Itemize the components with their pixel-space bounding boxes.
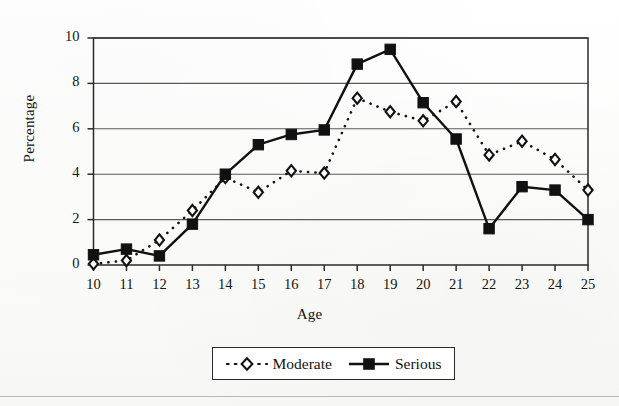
data-point-serious <box>385 44 395 54</box>
x-tick-label: 11 <box>109 276 143 293</box>
series-line-serious <box>94 49 589 256</box>
x-tick-label: 20 <box>406 276 440 293</box>
y-tick-label: 2 <box>50 210 80 227</box>
data-point-moderate <box>485 149 494 160</box>
x-tick-label: 23 <box>505 276 539 293</box>
x-tick-label: 25 <box>571 276 605 293</box>
x-tick-label: 24 <box>538 276 572 293</box>
x-tick-label: 18 <box>340 276 374 293</box>
chart-page: Percentage Age 0246810101112131415161718… <box>0 0 619 406</box>
data-point-moderate <box>155 234 164 245</box>
data-point-serious <box>121 244 131 254</box>
x-tick-label: 17 <box>307 276 341 293</box>
data-point-moderate <box>386 106 395 117</box>
data-point-serious <box>88 250 98 260</box>
x-tick-label: 12 <box>142 276 176 293</box>
x-tick-label: 21 <box>439 276 473 293</box>
legend-entry-serious: Serious <box>348 355 442 373</box>
legend-entry-moderate: Moderate <box>226 355 332 373</box>
x-tick-label: 22 <box>472 276 506 293</box>
y-tick-label: 6 <box>50 119 80 136</box>
data-point-moderate <box>254 187 263 198</box>
chart-legend: Moderate Serious <box>212 347 455 380</box>
page-bottom-rule <box>0 396 619 397</box>
line-chart-canvas <box>0 0 619 406</box>
legend-label-moderate: Moderate <box>273 355 332 373</box>
data-point-moderate <box>320 167 329 178</box>
data-point-moderate <box>452 96 461 107</box>
data-point-serious <box>451 134 461 144</box>
data-point-serious <box>253 139 263 149</box>
x-tick-label: 10 <box>77 276 111 293</box>
data-point-serious <box>583 214 593 224</box>
data-point-serious <box>220 169 230 179</box>
x-tick-label: 19 <box>373 276 407 293</box>
y-tick-label: 10 <box>50 28 80 45</box>
x-tick-label: 14 <box>208 276 242 293</box>
data-point-serious <box>319 125 329 135</box>
y-axis-title: Percentage <box>21 69 38 189</box>
y-tick-label: 0 <box>50 255 80 272</box>
data-point-serious <box>550 185 560 195</box>
legend-swatch-moderate-icon <box>226 356 268 372</box>
x-tick-label: 16 <box>274 276 308 293</box>
data-point-moderate <box>419 115 428 126</box>
data-point-moderate <box>353 93 362 104</box>
x-tick-label: 15 <box>241 276 275 293</box>
plot-frame <box>94 38 589 265</box>
data-point-serious <box>517 181 527 191</box>
legend-swatch-serious-icon <box>348 356 390 372</box>
y-tick-label: 4 <box>50 164 80 181</box>
data-point-serious <box>187 219 197 229</box>
data-point-moderate <box>517 136 526 147</box>
data-point-serious <box>286 129 296 139</box>
legend-label-serious: Serious <box>395 355 442 373</box>
data-point-moderate <box>550 154 559 165</box>
x-tick-label: 13 <box>175 276 209 293</box>
data-point-serious <box>154 251 164 261</box>
x-axis-title: Age <box>0 306 619 323</box>
series-line-moderate <box>94 98 589 264</box>
data-point-serious <box>484 223 494 233</box>
y-tick-label: 8 <box>50 73 80 90</box>
data-point-serious <box>418 97 428 107</box>
data-point-serious <box>352 59 362 69</box>
